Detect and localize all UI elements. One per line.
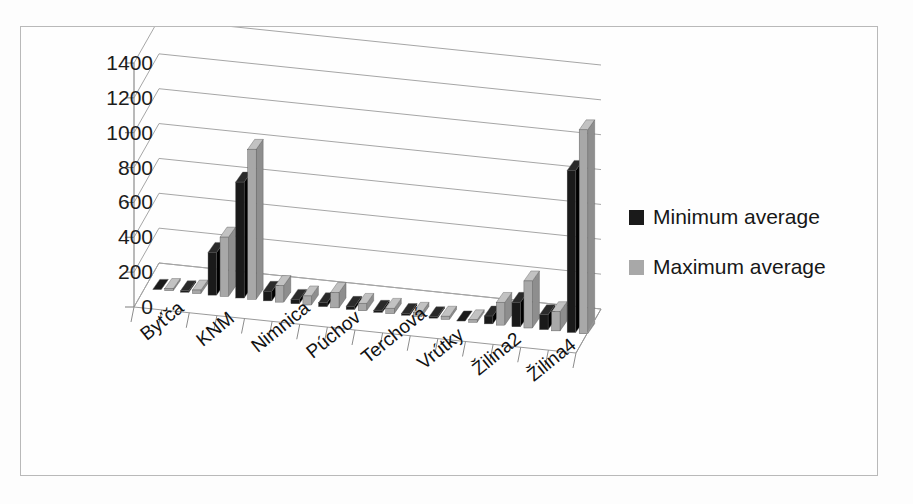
chart-frame: 1400120010008006004002000 ByťčaKNMNimnic…	[20, 26, 878, 476]
legend-label-maximum-average: Maximum average	[653, 255, 826, 279]
y-axis-tick-400: 400	[118, 226, 153, 247]
y-axis-tick-labels: 1400120010008006004002000	[57, 27, 153, 477]
y-axis-tick-1000: 1000	[106, 122, 153, 143]
y-axis-tick-800: 800	[118, 157, 153, 178]
legend-item-maximum-average: Maximum average	[629, 255, 879, 279]
y-axis-tick-1200: 1200	[106, 87, 153, 108]
chart-page: 1400120010008006004002000 ByťčaKNMNimnic…	[0, 0, 913, 504]
legend-item-minimum-average: Minimum average	[629, 205, 879, 229]
y-axis-tick-200: 200	[118, 261, 153, 282]
legend-label-minimum-average: Minimum average	[653, 205, 820, 229]
legend-swatch-minimum-average	[629, 210, 644, 225]
chart-legend: Minimum average Maximum average	[629, 205, 879, 305]
y-axis-tick-1400: 1400	[106, 52, 153, 73]
y-axis-tick-0: 0	[141, 296, 153, 317]
legend-swatch-maximum-average	[629, 260, 644, 275]
y-axis-tick-600: 600	[118, 191, 153, 212]
